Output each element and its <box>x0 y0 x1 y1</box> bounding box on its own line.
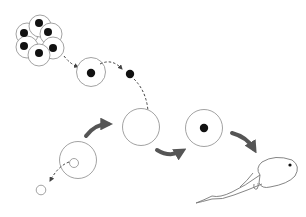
tadpole <box>196 157 297 203</box>
tadpole-eye <box>288 163 291 166</box>
reconstructed-egg <box>186 110 223 147</box>
tadpole-body <box>258 157 297 187</box>
tadpole-tail-fin <box>240 173 253 187</box>
enucleated-egg <box>123 109 160 146</box>
thick-arrow-enucleated-to-reconstructed <box>157 150 182 154</box>
nuclear-transfer-diagram <box>0 0 306 217</box>
tadpole-tail <box>196 175 262 203</box>
donor-egg <box>60 142 97 179</box>
extracted-nucleus <box>126 70 134 78</box>
thick-arrow-reconstructed-to-tadpole <box>232 133 254 149</box>
thick-arrow-donor-to-enucleated <box>86 124 108 136</box>
isolated-cell <box>77 58 106 87</box>
diagram-svg <box>0 0 306 217</box>
removed-nucleus <box>36 185 46 195</box>
embryo-cluster <box>16 15 64 66</box>
dashed-arrow-cluster-to-cell <box>64 56 78 67</box>
